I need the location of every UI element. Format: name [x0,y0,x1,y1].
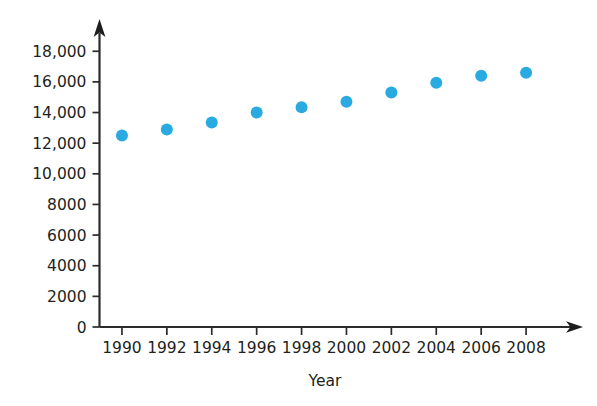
data-point [251,107,263,119]
x-axis-tick-label: 2002 [372,339,411,357]
y-axis-tick-label: 14,000 [32,104,86,122]
x-axis: 1990199219941996199820002002200420062008 [100,321,584,357]
x-axis-ticks [122,327,526,335]
data-point [430,77,442,89]
data-point [340,96,352,108]
y-axis-tick-label: 6000 [47,227,86,245]
y-axis-tick-label: 16,000 [32,73,86,91]
x-axis-tick-labels: 1990199219941996199820002002200420062008 [102,339,546,357]
y-axis-tick-label: 12,000 [32,135,86,153]
data-point [385,87,397,99]
x-axis-tick-label: 1996 [237,339,276,357]
data-point-series [116,67,532,142]
data-point [296,101,308,113]
x-axis-tick-label: 2006 [461,339,500,357]
x-axis-tick-label: 2000 [327,339,366,357]
y-axis-tick-label: 0 [77,319,87,337]
data-point [116,130,128,142]
data-point [475,70,487,82]
y-axis: 0200040006000800010,00012,00014,00016,00… [32,19,105,337]
y-axis-tick-labels: 0200040006000800010,00012,00014,00016,00… [32,43,86,337]
data-point [206,116,218,128]
x-axis-title: Year [308,372,342,390]
x-axis-tick-label: 1992 [147,339,186,357]
y-axis-tick-label: 8000 [47,196,86,214]
x-axis-tick-label: 1990 [102,339,141,357]
data-point [161,123,173,135]
x-axis-tick-label: 2008 [506,339,545,357]
chart-canvas: 0200040006000800010,00012,00014,00016,00… [0,0,597,406]
y-axis-tick-label: 4000 [47,257,86,275]
y-axis-tick-label: 18,000 [32,43,86,61]
x-axis-tick-label: 1998 [282,339,321,357]
y-axis-tick-label: 10,000 [32,165,86,183]
data-point [520,67,532,79]
scatter-chart: 0200040006000800010,00012,00014,00016,00… [0,0,597,406]
x-axis-tick-label: 1994 [192,339,231,357]
y-axis-tick-label: 2000 [47,288,86,306]
x-axis-tick-label: 2004 [417,339,456,357]
